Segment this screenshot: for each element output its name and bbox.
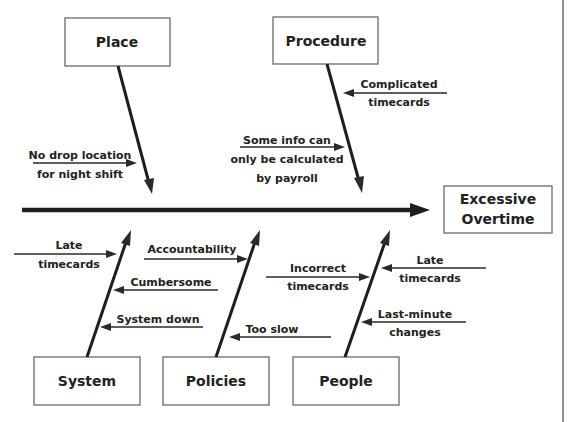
svg-text:System down: System down (116, 313, 199, 326)
arrow-icon (343, 89, 354, 97)
main-spine (22, 203, 430, 217)
cause-last-minute-changes: Last-minute changes (361, 308, 466, 339)
svg-text:Complicated: Complicated (360, 78, 437, 91)
arrow-icon (361, 318, 372, 326)
arrow-icon (113, 286, 124, 294)
category-procedure: Procedure Complicated timecards Some inf… (230, 17, 447, 193)
svg-text:changes: changes (389, 326, 441, 339)
svg-text:Late: Late (416, 254, 443, 267)
arrow-icon (359, 273, 370, 281)
cause-incorrect-timecards: Incorrect timecards (266, 262, 370, 293)
svg-text:timecards: timecards (287, 280, 349, 293)
place-label: Place (96, 34, 138, 50)
cause-some-info-payroll: Some info can only be calculated by payr… (230, 134, 345, 185)
effect-label-line1: Excessive (460, 191, 536, 207)
cause-too-slow: Too slow (229, 323, 331, 341)
arrow-icon (334, 143, 345, 151)
cause-complicated-timecards: Complicated timecards (343, 78, 447, 109)
arrow-icon (237, 255, 248, 263)
svg-text:for night shift: for night shift (37, 168, 123, 181)
place-bone-arrow-icon (144, 178, 154, 194)
people-bone-arrow-icon (380, 230, 390, 246)
svg-text:Cumbersome: Cumbersome (130, 276, 211, 289)
system-bone-arrow-icon (121, 230, 131, 246)
cause-people-late-timecards: Late timecards (381, 254, 486, 285)
cause-system-down: System down (100, 313, 203, 331)
cause-accountability: Accountability (144, 243, 248, 263)
svg-text:Accountability: Accountability (147, 243, 236, 256)
svg-text:only be calculated: only be calculated (230, 153, 343, 166)
svg-text:No drop location: No drop location (29, 149, 132, 162)
svg-text:Incorrect: Incorrect (290, 262, 346, 275)
svg-text:Late: Late (55, 239, 82, 252)
cause-cumbersome: Cumbersome (113, 276, 218, 294)
arrow-icon (381, 264, 392, 272)
svg-text:timecards: timecards (368, 96, 430, 109)
category-people: People Incorrect timecards Late timecard… (266, 230, 486, 405)
effect-box: Excessive Overtime (444, 186, 552, 233)
svg-text:timecards: timecards (399, 272, 461, 285)
effect-label-line2: Overtime (461, 211, 534, 227)
people-label: People (319, 373, 373, 389)
system-label: System (58, 373, 116, 389)
svg-text:timecards: timecards (38, 258, 100, 271)
arrow-icon (229, 333, 240, 341)
svg-text:Too slow: Too slow (245, 323, 298, 336)
procedure-bone-arrow-icon (354, 176, 364, 193)
svg-text:Last-minute: Last-minute (378, 308, 452, 321)
policies-label: Policies (186, 373, 246, 389)
svg-text:Some info can: Some info can (243, 134, 331, 147)
policies-bone-arrow-icon (250, 230, 260, 246)
arrow-icon (106, 250, 117, 258)
arrow-icon (100, 323, 111, 331)
spine-arrow-icon (410, 203, 430, 217)
procedure-label: Procedure (286, 33, 367, 49)
cause-no-drop-location: No drop location for night shift (29, 149, 137, 181)
cause-system-late-timecards: Late timecards (14, 239, 117, 271)
svg-text:by payroll: by payroll (256, 172, 318, 185)
category-place: Place No drop location for night shift (29, 18, 170, 194)
fishbone-diagram: Excessive Overtime Place No drop locatio… (0, 0, 570, 422)
